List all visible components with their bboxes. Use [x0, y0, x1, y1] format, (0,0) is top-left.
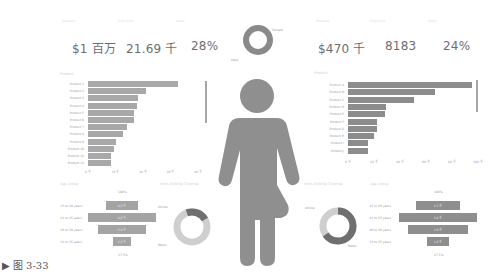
bar[interactable]	[88, 103, 137, 109]
bar[interactable]	[348, 148, 368, 154]
kpi-units: 8183	[385, 39, 416, 53]
left-donut-label-online: Online	[158, 205, 168, 209]
right-funnel-title: Age Group	[370, 182, 389, 186]
bar-row[interactable]: Product D	[314, 104, 386, 110]
kpi-share: 24%	[443, 39, 470, 53]
bar[interactable]	[348, 119, 377, 125]
funnel-bar[interactable]: 3.8 千	[399, 213, 477, 222]
funnel-row-label: 26 to 30 years	[46, 228, 82, 232]
funnel-bar[interactable]: 1.0 千	[427, 237, 449, 246]
bar-label: Product 5	[54, 111, 88, 115]
bar-row[interactable]: Product 8	[54, 131, 123, 137]
bar[interactable]	[348, 89, 435, 95]
bar[interactable]	[348, 126, 377, 132]
bar-row[interactable]: Product H	[314, 133, 374, 139]
kpi-label: Share	[428, 19, 437, 23]
bar-label: Product 11	[54, 154, 88, 158]
bar[interactable]	[348, 82, 472, 88]
bar[interactable]	[88, 95, 138, 101]
axis-tick: 20 千	[139, 170, 147, 174]
bar[interactable]	[348, 133, 374, 139]
kpi-label: Revenue	[62, 19, 75, 23]
bar[interactable]	[348, 104, 386, 110]
funnel-row-label: 15 to 20 years	[46, 204, 82, 208]
bar-row[interactable]: Product 6	[54, 117, 134, 123]
right-bar-title: Product	[314, 71, 327, 75]
bar[interactable]	[88, 153, 111, 159]
bar-label: Product 9	[54, 140, 88, 144]
bar-label: Product 6	[54, 118, 88, 122]
bar-label: Product 7	[54, 125, 88, 129]
bar-row[interactable]: Product 5	[54, 110, 134, 116]
bar-row[interactable]: Product 10	[54, 146, 114, 152]
bar-label: Product 12	[54, 161, 88, 165]
funnel-bar[interactable]: 5.9 千	[98, 225, 146, 234]
bar-row[interactable]: Product 1	[54, 81, 178, 87]
right-channel-donut	[316, 204, 360, 248]
kpi-share: 28%	[191, 39, 218, 53]
bar-label: Product 8	[54, 132, 88, 136]
funnel-bar[interactable]: 4.6 千	[106, 201, 138, 210]
axis-tick: 80 千	[448, 160, 456, 164]
kpi-units: 21.69 千	[126, 39, 178, 56]
bar-row[interactable]: Product 3	[54, 95, 138, 101]
bar[interactable]	[88, 117, 134, 123]
left-donut-title: Units Sold by Channel	[160, 182, 199, 186]
bar-label: Product 10	[54, 147, 88, 151]
axis-tick: 60 千	[422, 160, 430, 164]
bar-label: Product I	[314, 141, 348, 145]
kpi-label: Share	[176, 19, 185, 23]
bar-row[interactable]: Product 7	[54, 124, 127, 130]
funnel-row-label: 21 to 25 years	[46, 216, 82, 220]
funnel-top-label: 100%	[434, 190, 443, 194]
funnel-row-label: 15 to 20 years	[355, 204, 391, 208]
bar-row[interactable]: Product J	[314, 148, 368, 154]
bar-row[interactable]: Product B	[314, 89, 435, 95]
bar[interactable]	[348, 140, 368, 146]
bar[interactable]	[348, 97, 414, 103]
bar-row[interactable]: Product C	[314, 97, 414, 103]
bar-row[interactable]: Product A	[314, 82, 472, 88]
bar[interactable]	[88, 146, 114, 152]
kpi-revenue: $1 百万	[72, 39, 116, 56]
funnel-bar[interactable]: 2.0 千	[113, 237, 131, 246]
bar[interactable]	[88, 110, 134, 116]
left-bar-scrollbar[interactable]	[205, 81, 207, 123]
right-donut-title: Units Sold by Channel	[304, 182, 343, 186]
bar-row[interactable]: Product G	[314, 126, 377, 132]
right-donut-label-retail: Retail	[348, 244, 356, 248]
left-donut-label-retail: Retail	[158, 243, 166, 247]
kpi-label: Revenue	[316, 19, 329, 23]
bar[interactable]	[88, 160, 111, 166]
bar-row[interactable]: Product I	[314, 140, 368, 146]
right-bar-scrollbar[interactable]	[476, 80, 478, 112]
funnel-bar[interactable]: 2.1 千	[416, 201, 460, 210]
funnel-row-label: 31 to 35 years	[46, 240, 82, 244]
axis-tick: 20 千	[370, 160, 378, 164]
bar[interactable]	[88, 139, 116, 145]
bar-label: Product A	[314, 83, 348, 87]
bar-label: Product B	[314, 90, 348, 94]
axis-tick: 0 千	[345, 160, 351, 164]
bar-row[interactable]: Product 9	[54, 139, 116, 145]
funnel-bar[interactable]: 2.9 千	[408, 225, 468, 234]
bar-row[interactable]: Product E	[314, 111, 385, 117]
funnel-bar[interactable]: 8.6 千	[88, 213, 156, 222]
bar[interactable]	[88, 131, 123, 137]
bar-row[interactable]: Product 2	[54, 88, 146, 94]
gender-label-female: Female	[272, 28, 283, 32]
bar-row[interactable]: Product 12	[54, 160, 111, 166]
bar[interactable]	[348, 111, 385, 117]
bar[interactable]	[88, 124, 127, 130]
bar-row[interactable]: Product F	[314, 119, 377, 125]
axis-tick: 0 千	[85, 170, 91, 174]
funnel-bottom-label: 27.5%	[434, 253, 444, 257]
kpi-label: Units Sold	[118, 19, 133, 23]
bar-label: Product J	[314, 149, 348, 153]
bar-row[interactable]: Product 4	[54, 103, 137, 109]
bar-row[interactable]: Product 11	[54, 153, 111, 159]
bar[interactable]	[88, 88, 146, 94]
gender-figure-icon	[215, 70, 300, 270]
right-donut-label-online: Online	[305, 206, 315, 210]
bar[interactable]	[88, 81, 178, 87]
